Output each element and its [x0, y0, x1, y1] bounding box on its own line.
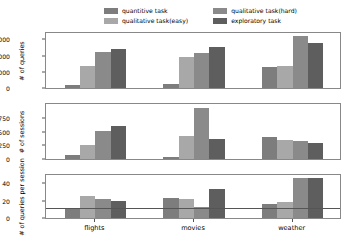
legend-entry-quantitive-task: quantitive task	[104, 7, 195, 14]
chart-legend: quantitive task qualitative task(hard) q…	[104, 7, 304, 24]
xtick-label-movies: movies	[181, 224, 205, 232]
ytick-label-sessions-0: 0	[6, 156, 10, 163]
ytick-label-queries-0: 0	[6, 85, 10, 92]
bar-group-movies	[163, 33, 224, 88]
subplot-sessions	[45, 103, 341, 160]
bar-queries-per-session-flights-3	[111, 201, 126, 218]
bar-queries-per-session-weather-1	[277, 202, 292, 218]
bar-group-movies	[163, 104, 224, 159]
legend-entry-qualitative-task-easy: qualitative task(easy)	[104, 17, 195, 24]
ytick-label-queries-10000: 10000	[0, 52, 10, 59]
reference-line	[46, 208, 340, 209]
ytick-mark-queries-per-session-20	[42, 200, 45, 201]
ytick-mark-queries-15000	[42, 39, 45, 40]
bar-sessions-flights-3	[111, 126, 126, 159]
bar-queries-movies-0	[163, 84, 178, 88]
bar-queries-weather-1	[277, 66, 292, 88]
bar-sessions-weather-2	[293, 141, 308, 159]
bar-sessions-flights-0	[65, 155, 80, 159]
bar-queries-movies-3	[209, 47, 224, 88]
bar-group-weather	[262, 175, 323, 218]
legend-swatch-exploratory-task	[213, 18, 227, 24]
bar-queries-per-session-weather-3	[308, 178, 323, 218]
legend-label-quantitive-task: quantitive task	[122, 7, 168, 14]
bar-chart-figure: quantitive task qualitative task(hard) q…	[0, 0, 358, 252]
bar-queries-per-session-flights-0	[65, 208, 80, 218]
ytick-mark-queries-10000	[42, 55, 45, 56]
bar-sessions-movies-0	[163, 157, 178, 159]
legend-entry-qualitative-task-hard: qualitative task(hard)	[213, 7, 304, 14]
ytick-mark-sessions-750	[42, 117, 45, 118]
plot-area-queries	[46, 33, 340, 88]
ytick-mark-queries-5000	[42, 71, 45, 72]
legend-label-qualitative-task-easy: qualitative task(easy)	[122, 17, 188, 24]
legend-label-qualitative-task-hard: qualitative task(hard)	[231, 7, 297, 14]
ytick-label-queries-per-session-20: 20	[2, 197, 10, 204]
bar-group-flights	[65, 175, 126, 218]
ylabel-queries: # of queries	[18, 41, 26, 80]
bar-group-weather	[262, 33, 323, 88]
legend-entry-exploratory-task: exploratory task	[213, 17, 304, 24]
ytick-label-queries-per-session-40: 40	[2, 180, 10, 187]
xtick-label-weather: weather	[278, 224, 305, 232]
ytick-label-queries-15000: 15000	[0, 36, 10, 43]
ytick-label-queries-per-session-0: 0	[6, 215, 10, 222]
ylabel-sessions: # of sessions	[18, 110, 26, 153]
plot-area-queries-per-session	[46, 175, 340, 218]
ytick-mark-sessions-500	[42, 131, 45, 132]
bar-queries-per-session-weather-0	[262, 204, 277, 218]
bar-queries-per-session-movies-3	[209, 189, 224, 219]
bar-queries-flights-1	[80, 66, 95, 88]
xtick-mark-weather	[292, 219, 293, 222]
ytick-label-sessions-750: 750	[0, 114, 10, 121]
bar-group-flights	[65, 33, 126, 88]
ylabel-queries-per-session: # of queries per session	[18, 158, 26, 236]
bar-queries-weather-2	[293, 36, 308, 88]
bar-sessions-movies-1	[179, 136, 194, 159]
bar-queries-movies-1	[179, 57, 194, 88]
bar-group-movies	[163, 175, 224, 218]
legend-swatch-qualitative-task-easy	[104, 18, 118, 24]
ytick-mark-queries-per-session-0	[42, 218, 45, 219]
bar-sessions-flights-2	[95, 131, 110, 159]
legend-swatch-qualitative-task-hard	[213, 8, 227, 14]
plot-area-sessions	[46, 104, 340, 159]
ytick-mark-sessions-250	[42, 145, 45, 146]
bar-group-flights	[65, 104, 126, 159]
bar-group-weather	[262, 104, 323, 159]
subplot-queries	[45, 32, 341, 89]
ytick-mark-queries-0	[42, 88, 45, 89]
ytick-mark-sessions-0	[42, 159, 45, 160]
bar-sessions-flights-1	[80, 145, 95, 159]
bar-queries-weather-0	[262, 67, 277, 88]
bar-queries-flights-3	[111, 49, 126, 88]
bar-queries-movies-2	[194, 53, 209, 88]
bar-queries-flights-0	[65, 85, 80, 88]
bar-queries-weather-3	[308, 43, 323, 88]
bar-sessions-weather-3	[308, 143, 323, 159]
ytick-label-sessions-250: 250	[0, 142, 10, 149]
subplot-queries-per-session	[45, 174, 341, 219]
ytick-label-queries-5000: 5000	[0, 68, 10, 75]
bar-queries-per-session-weather-2	[293, 178, 308, 218]
bar-sessions-weather-0	[262, 137, 277, 159]
xtick-mark-flights	[94, 219, 95, 222]
ytick-mark-queries-per-session-40	[42, 183, 45, 184]
ytick-label-sessions-500: 500	[0, 128, 10, 135]
legend-swatch-quantitive-task	[104, 8, 118, 14]
bar-queries-flights-2	[95, 52, 110, 88]
bar-sessions-weather-1	[277, 140, 292, 159]
bar-sessions-movies-3	[209, 139, 224, 159]
bar-sessions-movies-2	[194, 108, 209, 159]
legend-label-exploratory-task: exploratory task	[231, 17, 281, 24]
xtick-label-flights: flights	[84, 224, 104, 232]
xtick-mark-movies	[193, 219, 194, 222]
